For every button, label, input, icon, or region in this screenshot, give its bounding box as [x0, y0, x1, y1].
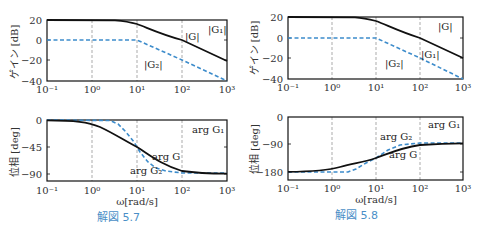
xtick: 10⁻¹	[36, 185, 58, 196]
ytick: −90	[262, 139, 283, 150]
phase-ylabel: 位相 [deg]	[8, 127, 20, 177]
xtick: 10³	[455, 82, 472, 93]
caption-right: 解図 5.8	[335, 206, 378, 222]
annotation-argG1: arg G₁	[192, 124, 224, 135]
xtick: 10¹	[129, 185, 146, 196]
caption-left: 解図 5.7	[97, 208, 140, 224]
xtick: 10¹	[368, 183, 385, 194]
ytick: 0	[277, 33, 283, 44]
ytick: 20	[270, 12, 283, 23]
annotation-argG1: arg G₁	[428, 119, 460, 130]
annotation-argG2: arg G₂	[130, 165, 162, 176]
ytick: 20	[29, 15, 42, 26]
xtick: 10¹	[368, 82, 385, 93]
ytick: 0	[36, 35, 42, 46]
ytick: −20	[262, 53, 283, 64]
grid-lines	[92, 20, 182, 81]
xtick: 10⁻¹	[277, 82, 299, 93]
annotation-argG: arg G	[152, 151, 180, 162]
xlabel: ω[rad/s]	[116, 196, 158, 207]
annotation-argG: arg G	[389, 149, 417, 160]
annotation-G1: |G₁|	[421, 49, 440, 61]
left-gain-plot: 20 0 −20 −40 10⁻¹ 10⁰ 10¹ 10² 10³ ゲイン [d…	[9, 15, 235, 95]
xtick: 10²	[174, 84, 191, 95]
annotation-G2: |G₂|	[144, 59, 163, 71]
xlabel: ω[rad/s]	[355, 194, 397, 205]
gain-ylabel: ゲイン [dB]	[9, 25, 20, 80]
xtick: 10⁰	[84, 84, 101, 95]
xtick: 10⁻¹	[277, 183, 299, 194]
xtick: 10²	[174, 185, 191, 196]
xtick: 10³	[219, 84, 236, 95]
xtick: 10²	[412, 82, 429, 93]
annotation-G: |G|	[438, 21, 453, 33]
xtick: 10²	[412, 183, 429, 194]
bode-figure: 20 0 −20 −40 10⁻¹ 10⁰ 10¹ 10² 10³ ゲイン [d…	[0, 0, 483, 231]
ytick: −90	[21, 169, 42, 180]
series-argG	[288, 143, 463, 172]
right-phase-plot: 0 −90 −180 10⁻¹ 10⁰ 10¹ 10² 10³ 位相 [deg]…	[248, 112, 471, 205]
ytick: 0	[277, 112, 283, 123]
xtick: 10⁰	[324, 183, 341, 194]
grid-lines	[332, 17, 420, 79]
xtick: 10¹	[129, 84, 146, 95]
xtick: 10⁰	[324, 82, 341, 93]
ytick: −20	[21, 55, 42, 66]
annotation-G1: |G₁|	[208, 24, 227, 36]
left-phase-plot: 0 −45 −90 10⁻¹ 10⁰ 10¹ 10² 10³ 位相 [deg] …	[8, 115, 235, 207]
ytick: 0	[36, 115, 42, 126]
xtick: 10⁻¹	[36, 84, 58, 95]
annotation-G2: |G₂|	[385, 58, 404, 70]
right-gain-plot: 20 0 −20 −40 10⁻¹ 10⁰ 10¹ 10² 10³ ゲイン [d…	[249, 12, 471, 93]
phase-ylabel: 位相 [deg]	[248, 124, 260, 174]
xtick: 10³	[219, 185, 236, 196]
gain-ylabel: ゲイン [dB]	[249, 21, 260, 76]
ytick: −45	[21, 142, 42, 153]
xtick: 10⁰	[84, 185, 101, 196]
annotation-G: |G|	[185, 31, 200, 43]
xtick: 10³	[455, 183, 472, 194]
plot-frame	[288, 17, 463, 79]
annotation-argG2: arg G₂	[380, 131, 412, 142]
